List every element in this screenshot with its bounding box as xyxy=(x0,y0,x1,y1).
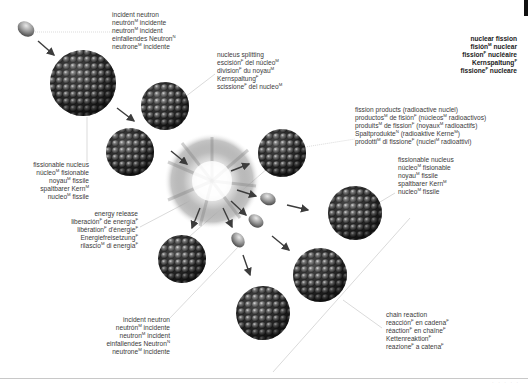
page-footer-rule xyxy=(0,378,528,379)
released-neutron-2 xyxy=(246,211,266,230)
label-nucleus-splitting: nucleus splitting escisiónF del núcleoM … xyxy=(217,51,282,91)
fission-product-lower xyxy=(158,235,206,283)
splitting-nucleus-lower xyxy=(106,128,154,176)
fissionable-nucleus-right xyxy=(328,186,382,240)
title-nuclear-fission: nuclear fission fisiónM nuclear fissionF… xyxy=(460,35,517,75)
label-incident-neutron-bottom: incident neutron neutrónM incidente neut… xyxy=(106,316,170,356)
label-energy-release: energy release liberaciónF de energíaF l… xyxy=(71,210,138,250)
fission-products-it: prodottiM di fissioneF (nucleiM radioatt… xyxy=(355,138,486,146)
label-fission-products: fission products (radioactive nuclei) pr… xyxy=(355,106,486,146)
label-fissionable-nucleus-right: fissionable nucleus núcleoM fisionable n… xyxy=(398,156,454,196)
incident-neutron-top xyxy=(15,18,38,40)
released-neutron-1 xyxy=(258,191,277,208)
title-it: fissioneF nucleare xyxy=(460,67,517,75)
nuclear-fission-diagram: nuclear fission fisiónM nuclear fissionF… xyxy=(0,0,528,386)
splitting-nucleus-upper xyxy=(141,82,189,130)
page-footer-marks: · · · · · xyxy=(492,381,520,385)
chain-nucleus-middle xyxy=(293,248,347,302)
released-neutron-3 xyxy=(228,230,247,250)
fissionable-nucleus-initial xyxy=(50,50,116,116)
page-tab-marker xyxy=(524,0,528,16)
label-chain-reaction: chain reaction reacciónF en cadenaF réac… xyxy=(386,311,449,351)
title-es: fisiónM nuclear xyxy=(460,43,517,51)
fission-product-upper xyxy=(258,129,306,177)
chain-nucleus-bottom xyxy=(236,286,290,340)
fission-products-es: productosM de fisiónF (núcleosM radioact… xyxy=(355,114,486,122)
label-incident-neutron-top: incident neutron neutrónM incidente neut… xyxy=(112,11,176,51)
label-fissionable-nucleus-left: fissionable nucleus núcleoM fisionable n… xyxy=(33,161,89,201)
fission-products-en: fission products (radioactive nuclei) xyxy=(355,106,486,114)
